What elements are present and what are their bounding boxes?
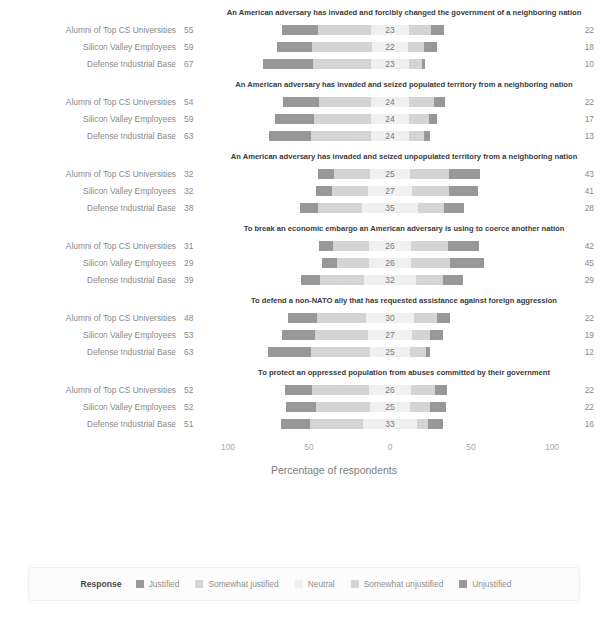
legend-item[interactable]: Neutral — [295, 579, 335, 589]
segment-somewhat-unjustified — [417, 419, 428, 429]
segment-neutral-left — [371, 97, 390, 107]
segment-unjustified — [435, 385, 446, 395]
row-bar-area: 25 — [0, 166, 608, 182]
chart-legend: Response JustifiedSomewhat justifiedNeut… — [28, 567, 580, 601]
segment-justified — [322, 258, 337, 268]
segment-justified — [263, 59, 313, 69]
segment-neutral-left — [370, 169, 390, 179]
segment-unjustified — [449, 169, 480, 179]
segment-justified — [286, 402, 317, 412]
segment-somewhat-justified — [313, 59, 371, 69]
x-axis-tick: 0 — [370, 442, 410, 452]
segment-justified — [288, 313, 317, 323]
legend-swatch-icon — [295, 580, 303, 588]
segment-neutral-right — [390, 59, 409, 69]
segment-neutral-right — [390, 275, 416, 285]
chart-panel: An American adversary has invaded and se… — [0, 152, 608, 224]
chart-row: Silicon Valley Employees522225 — [0, 399, 608, 415]
segment-unjustified — [426, 347, 429, 357]
chart-row: Alumni of Top CS Universities522226 — [0, 382, 608, 398]
legend-swatch-icon — [136, 580, 144, 588]
segment-somewhat-unjustified — [409, 131, 424, 141]
panel-title: To defend a non-NATO ally that has reque… — [200, 296, 608, 305]
segment-somewhat-unjustified — [411, 258, 450, 268]
chart-row: Silicon Valley Employees324127 — [0, 183, 608, 199]
segment-neutral-right — [390, 241, 411, 251]
row-bar-area: 25 — [0, 344, 608, 360]
segment-neutral-left — [371, 114, 390, 124]
segment-somewhat-justified — [311, 347, 369, 357]
segment-unjustified — [430, 330, 443, 340]
legend-swatch-icon — [459, 580, 467, 588]
x-axis-tick: 100 — [208, 442, 248, 452]
chart-panel: To protect an oppressed population from … — [0, 368, 608, 440]
segment-somewhat-justified — [316, 402, 369, 412]
x-axis-tick: 100 — [532, 442, 572, 452]
segment-unjustified — [450, 258, 484, 268]
chart-row: Alumni of Top CS Universities324325 — [0, 166, 608, 182]
segment-somewhat-unjustified — [409, 25, 432, 35]
segment-neutral-right — [390, 402, 410, 412]
segment-somewhat-justified — [319, 97, 371, 107]
segment-neutral-left — [364, 275, 390, 285]
segment-somewhat-unjustified — [418, 203, 444, 213]
segment-neutral-right — [390, 347, 410, 357]
segment-neutral-left — [369, 385, 390, 395]
row-bar-area: 24 — [0, 94, 608, 110]
x-axis: 10050050100 — [0, 442, 608, 458]
chart-panel: To break an economic embargo an American… — [0, 224, 608, 296]
segment-neutral-left — [369, 258, 390, 268]
segment-unjustified — [431, 25, 444, 35]
segment-somewhat-justified — [333, 241, 369, 251]
row-bar-area: 24 — [0, 128, 608, 144]
segment-somewhat-justified — [312, 385, 369, 395]
segment-somewhat-unjustified — [410, 347, 426, 357]
segment-neutral-right — [390, 42, 408, 52]
segment-justified — [283, 97, 319, 107]
chart-panel: To defend a non-NATO ally that has reque… — [0, 296, 608, 368]
segment-somewhat-unjustified — [412, 330, 430, 340]
legend-item[interactable]: Somewhat unjustified — [351, 579, 444, 589]
segment-justified — [275, 114, 314, 124]
chart-row: Silicon Valley Employees591822 — [0, 39, 608, 55]
segment-justified — [277, 42, 313, 52]
row-bar-area: 26 — [0, 238, 608, 254]
segment-somewhat-justified — [318, 203, 362, 213]
chart-row: Defense Industrial Base671023 — [0, 56, 608, 72]
segment-justified — [282, 330, 314, 340]
panel-title: To protect an oppressed population from … — [200, 368, 608, 377]
segment-neutral-right — [390, 330, 412, 340]
legend-item-label: Somewhat justified — [208, 579, 278, 589]
chart-row: Defense Industrial Base631225 — [0, 344, 608, 360]
segment-somewhat-justified — [312, 42, 372, 52]
segment-somewhat-justified — [314, 114, 371, 124]
chart-panel: An American adversary has invaded and se… — [0, 80, 608, 152]
segment-somewhat-unjustified — [408, 42, 424, 52]
segment-somewhat-justified — [317, 313, 366, 323]
chart-row: Defense Industrial Base631324 — [0, 128, 608, 144]
segment-unjustified — [449, 186, 478, 196]
row-bar-area: 23 — [0, 22, 608, 38]
segment-neutral-right — [390, 25, 409, 35]
segment-somewhat-justified — [311, 131, 371, 141]
segment-somewhat-justified — [320, 275, 364, 285]
legend-item[interactable]: Unjustified — [459, 579, 511, 589]
legend-title: Response — [81, 579, 122, 589]
segment-unjustified — [429, 114, 437, 124]
segment-justified — [281, 419, 310, 429]
segment-somewhat-unjustified — [409, 114, 428, 124]
segment-somewhat-unjustified — [414, 313, 437, 323]
chart-row: Silicon Valley Employees531927 — [0, 327, 608, 343]
chart-row: Defense Industrial Base392932 — [0, 272, 608, 288]
segment-somewhat-justified — [318, 25, 371, 35]
segment-neutral-right — [390, 131, 409, 141]
legend-item-label: Somewhat unjustified — [364, 579, 444, 589]
segment-neutral-right — [390, 169, 410, 179]
legend-item[interactable]: Somewhat justified — [195, 579, 278, 589]
segment-somewhat-unjustified — [409, 97, 433, 107]
chart-row: Alumni of Top CS Universities542224 — [0, 94, 608, 110]
x-axis-tick: 50 — [451, 442, 491, 452]
panel-title: An American adversary has invaded and se… — [200, 80, 608, 89]
legend-item-label: Justified — [149, 579, 180, 589]
legend-item[interactable]: Justified — [136, 579, 180, 589]
